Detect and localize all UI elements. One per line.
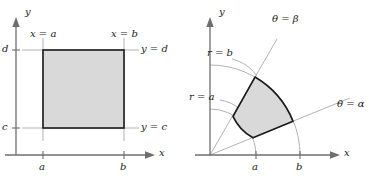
figure-root: y x a b c d x = a x = b y = d y = c	[0, 0, 370, 183]
cartesian-canvas	[0, 0, 185, 183]
tick-label-y-d: d	[2, 44, 8, 54]
boundary-label-theta-equals-beta: θ = β	[272, 14, 299, 24]
y-axis-label: y	[219, 7, 225, 17]
y-axis-arrowhead	[206, 17, 213, 27]
shaded-polar-region	[233, 77, 293, 138]
tick-label-x-a: a	[252, 162, 258, 172]
shaded-rectangle-region	[43, 50, 124, 128]
boundary-label-theta-equals-alpha: θ = α	[337, 99, 365, 109]
leader-line-r-b	[232, 59, 257, 76]
boundary-label-r-equals-a: r = a	[189, 92, 214, 102]
cartesian-rectangle-diagram: y x a b c d x = a x = b y = d y = c	[0, 0, 185, 183]
boundary-label-x-equals-b: x = b	[111, 29, 138, 39]
boundary-label-r-equals-b: r = b	[207, 48, 233, 58]
tick-label-x-b: b	[296, 162, 302, 172]
boundary-label-x-equals-a: x = a	[30, 29, 56, 39]
polar-sector-diagram: y x a b r = b r = a θ = β θ = α	[185, 0, 370, 183]
boundary-label-y-equals-c: y = c	[141, 122, 167, 132]
x-axis-label: x	[159, 148, 165, 158]
leader-line-r-a	[220, 100, 238, 108]
tick-label-x-a: a	[39, 162, 45, 172]
boundary-label-y-equals-d: y = d	[141, 44, 168, 54]
x-axis-arrowhead	[330, 151, 340, 158]
tick-label-x-b: b	[120, 162, 126, 172]
x-axis-label: x	[344, 148, 350, 158]
y-axis-arrowhead	[12, 17, 19, 27]
y-axis-label: y	[25, 7, 31, 17]
x-axis-arrowhead	[145, 151, 155, 158]
tick-label-y-c: c	[2, 122, 8, 132]
